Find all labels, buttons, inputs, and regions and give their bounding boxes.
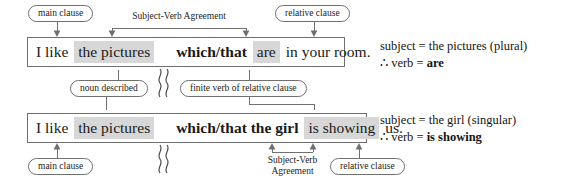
- label-subject-verb-agreement-top: Subject-Verb Agreement: [109, 11, 249, 22]
- finite-verb-highlight-2: is showing: [304, 117, 379, 140]
- explanation-2-verb: is showing: [427, 130, 482, 144]
- label-finite-verb-of-relative-clause: finite verb of relative clause: [180, 80, 307, 97]
- label-subject-verb-agreement-bottom: Subject-Verb Agreement: [253, 155, 332, 177]
- explanation-1-verb: are: [427, 56, 444, 70]
- relative-pronoun-1: which/that: [174, 41, 249, 64]
- label-sva-line-2: Agreement: [253, 166, 332, 177]
- grammar-diagram-figure: I like the pictures which/that are in yo…: [0, 0, 580, 182]
- main-clause-plain-text-1: I like: [28, 41, 70, 64]
- label-main-clause-bottom: main clause: [28, 158, 93, 175]
- label-relative-clause-bottom: relative clause: [330, 158, 405, 175]
- explanation-example-1-line-2: ∴ verb = are: [380, 55, 444, 72]
- noun-described-highlight-1: the pictures: [74, 41, 154, 64]
- relative-clause-tail-1: in your room.: [284, 41, 377, 64]
- explanation-1-prefix: ∴ verb =: [380, 56, 427, 70]
- clause-divider-squiggle-2: [154, 113, 174, 143]
- label-relative-clause-top: relative clause: [275, 5, 350, 22]
- finite-verb-highlight-1: are: [253, 41, 280, 64]
- explanation-example-2-line-2: ∴ verb = is showing: [380, 129, 482, 146]
- relative-pronoun-subject-2: which/that the girl: [174, 117, 300, 140]
- sentence-box-example-2: I like the pictures which/that the girl …: [27, 113, 367, 143]
- sentence-box-example-1: I like the pictures which/that are in yo…: [27, 37, 345, 67]
- label-noun-described: noun described: [70, 80, 148, 97]
- clause-divider-squiggle-1: [154, 37, 174, 67]
- explanation-2-prefix: ∴ verb =: [380, 130, 427, 144]
- label-main-clause-top: main clause: [28, 5, 93, 22]
- main-clause-plain-text-2: I like: [28, 117, 70, 140]
- explanation-example-2-line-1: subject = the girl (singular): [380, 112, 516, 129]
- explanation-example-1-line-1: subject = the pictures (plural): [380, 38, 527, 55]
- noun-described-highlight-2: the pictures: [74, 117, 154, 140]
- label-svа-line-1: Subject-Verb: [253, 155, 332, 166]
